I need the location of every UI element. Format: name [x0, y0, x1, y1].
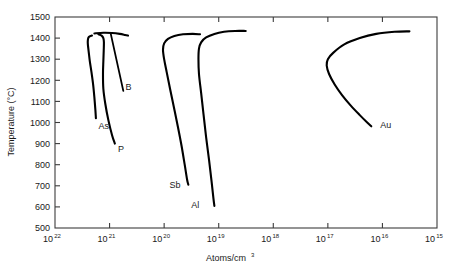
- y-tick-label: 1400: [30, 33, 50, 43]
- curve-label-as: As: [98, 121, 109, 131]
- x-axis-tick-labels: 10221021102010191018101710161015: [43, 233, 444, 244]
- x-tick-label: 1022: [43, 233, 62, 244]
- y-tick-label: 700: [35, 181, 50, 191]
- x-tick-label: 1019: [207, 233, 226, 244]
- y-tick-label: 1100: [31, 97, 50, 107]
- curve-sb: [163, 34, 200, 185]
- x-axis-title-superscript: 3: [251, 252, 255, 258]
- x-axis-title-text: Atoms/cm: [206, 253, 246, 263]
- x-tick-exponent: 16: [382, 233, 389, 239]
- curve-label-sb: Sb: [169, 180, 180, 190]
- y-axis-tick-labels: 150014001300120011001000900800700600500: [30, 12, 50, 233]
- x-tick-label: 1020: [152, 233, 171, 244]
- curves: [88, 31, 410, 206]
- curve-au: [327, 31, 410, 126]
- x-tick-exponent: 19: [218, 233, 225, 239]
- leader-line-b: [111, 34, 124, 91]
- x-tick-exponent: 18: [272, 233, 279, 239]
- x-tick-mantissa: 10: [261, 234, 271, 244]
- y-tick-label: 800: [35, 160, 50, 170]
- curve-label-p: P: [118, 144, 124, 154]
- x-tick-exponent: 15: [436, 233, 443, 239]
- x-tick-mantissa: 10: [316, 234, 326, 244]
- x-tick-mantissa: 10: [43, 234, 53, 244]
- x-axis-title: Atoms/cm 3: [206, 252, 255, 263]
- y-axis-title: Temperature (°C): [6, 87, 16, 156]
- y-tick-label: 900: [35, 139, 50, 149]
- curve-label-al: Al: [191, 200, 199, 210]
- curve-label-b: B: [126, 82, 132, 92]
- x-tick-exponent: 20: [163, 233, 170, 239]
- y-tick-label: 1200: [30, 76, 50, 86]
- curve-label-au: Au: [380, 120, 391, 130]
- curve-al: [198, 31, 245, 206]
- y-tick-label: 1000: [30, 118, 50, 128]
- x-tick-label: 1021: [98, 233, 117, 244]
- x-tick-mantissa: 10: [152, 234, 162, 244]
- x-tick-mantissa: 10: [207, 234, 217, 244]
- x-tick-label: 1015: [425, 233, 444, 244]
- x-axis-ticks: [110, 17, 383, 228]
- x-tick-mantissa: 10: [370, 234, 380, 244]
- x-tick-mantissa: 10: [98, 234, 108, 244]
- x-tick-mantissa: 10: [425, 234, 435, 244]
- x-tick-label: 1017: [316, 233, 335, 244]
- x-tick-exponent: 21: [109, 233, 116, 239]
- curve-as: [88, 36, 96, 119]
- solid-solubility-chart: 10221021102010191018101710161015 1500140…: [0, 0, 457, 274]
- x-tick-exponent: 22: [54, 233, 61, 239]
- y-tick-label: 500: [35, 223, 50, 233]
- y-tick-label: 1500: [30, 12, 50, 22]
- y-tick-label: 600: [35, 202, 50, 212]
- y-axis-title-text: Temperature (°C): [6, 87, 16, 156]
- chart-canvas: 10221021102010191018101710161015 1500140…: [0, 0, 457, 274]
- x-tick-label: 1018: [261, 233, 280, 244]
- y-axis-ticks: [55, 38, 60, 207]
- x-tick-exponent: 17: [327, 233, 334, 239]
- x-tick-label: 1016: [370, 233, 389, 244]
- y-tick-label: 1300: [30, 54, 50, 64]
